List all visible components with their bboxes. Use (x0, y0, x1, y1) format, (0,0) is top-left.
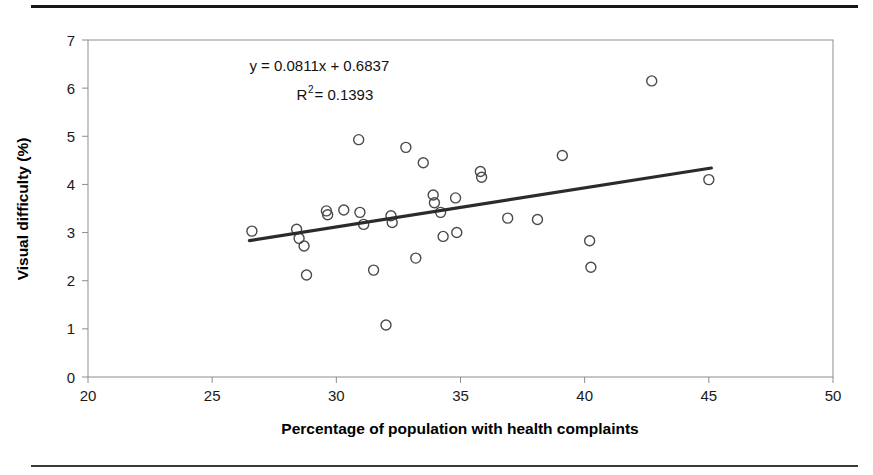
y-axis-tick-labels: 01234567 (67, 32, 75, 386)
scatter-plot: 20253035404550 01234567 y = 0.0811x + 0.… (0, 0, 873, 475)
x-tick-label: 35 (452, 387, 469, 404)
r-squared-label: R (297, 86, 308, 103)
x-axis-tick-labels: 20253035404550 (80, 387, 842, 404)
y-axis-title: Visual difficulty (%) (14, 138, 31, 281)
y-tick-label: 5 (67, 128, 75, 145)
y-tick-label: 1 (67, 320, 75, 337)
y-tick-label: 7 (67, 32, 75, 49)
x-tick-label: 40 (576, 387, 593, 404)
y-axis-ticks (82, 40, 88, 377)
y-tick-label: 2 (67, 272, 75, 289)
y-tick-label: 6 (67, 80, 75, 97)
x-tick-label: 30 (328, 387, 345, 404)
r-squared-superscript: 2 (308, 84, 314, 95)
r-squared-value-text: = 0.1393 (315, 86, 374, 103)
x-axis-title: Percentage of population with health com… (281, 420, 638, 437)
y-tick-label: 3 (67, 224, 75, 241)
x-axis-ticks (88, 377, 833, 383)
y-tick-label: 4 (67, 176, 75, 193)
x-tick-label: 20 (80, 387, 97, 404)
chart-svg: 20253035404550 01234567 y = 0.0811x + 0.… (0, 0, 873, 475)
x-tick-label: 45 (700, 387, 717, 404)
figure-container: 20253035404550 01234567 y = 0.0811x + 0.… (0, 0, 873, 475)
y-tick-label: 0 (67, 369, 75, 386)
x-tick-label: 25 (204, 387, 221, 404)
regression-equation-text: y = 0.0811x + 0.6837 (249, 57, 389, 74)
x-tick-label: 50 (825, 387, 842, 404)
